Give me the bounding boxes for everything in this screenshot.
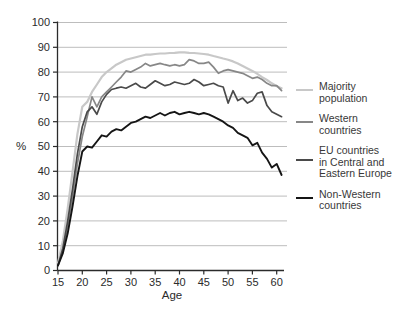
y-tick-label-50: 50 bbox=[38, 140, 50, 152]
legend-label-non-western: Non-Western countries bbox=[319, 189, 381, 212]
y-tick-label-20: 20 bbox=[38, 215, 50, 227]
legend-line-swatch-eu bbox=[296, 159, 313, 161]
legend-item-majority-population: Majority population bbox=[296, 81, 402, 104]
x-tick-label-35: 35 bbox=[149, 276, 161, 288]
y-tick-label-40: 40 bbox=[38, 165, 50, 177]
legend-text-line: population bbox=[319, 93, 367, 105]
legend-line-swatch-non-western bbox=[296, 197, 313, 199]
legend-label-western: Western countries bbox=[319, 113, 362, 136]
series-line-western-countries bbox=[58, 60, 282, 266]
y-tick-label-0: 0 bbox=[44, 264, 50, 276]
legend-text-line: Eastern Europe bbox=[319, 168, 392, 180]
legend-item-eu-countries: EU countries in Central and Eastern Euro… bbox=[296, 145, 402, 180]
figure: 0102030405060708090100152025303540455055… bbox=[0, 0, 406, 321]
x-tick-label-55: 55 bbox=[246, 276, 258, 288]
legend-text-line: EU countries bbox=[319, 145, 392, 157]
x-tick-label-30: 30 bbox=[125, 276, 137, 288]
y-tick-label-60: 60 bbox=[38, 116, 50, 128]
y-tick-label-10: 10 bbox=[38, 240, 50, 252]
x-tick-label-45: 45 bbox=[198, 276, 210, 288]
y-axis-title: % bbox=[16, 140, 26, 152]
y-tick-label-70: 70 bbox=[38, 91, 50, 103]
legend-label-eu: EU countries in Central and Eastern Euro… bbox=[319, 145, 392, 180]
legend-line-swatch-western bbox=[296, 121, 313, 123]
x-tick-label-60: 60 bbox=[271, 276, 283, 288]
x-tick-label-15: 15 bbox=[52, 276, 64, 288]
x-axis-title: Age bbox=[162, 289, 182, 301]
series-line-non-western-countries bbox=[58, 112, 282, 266]
y-tick-label-80: 80 bbox=[38, 66, 50, 78]
legend-item-non-western-countries: Non-Western countries bbox=[296, 189, 402, 212]
legend: Majority population Western countries EU… bbox=[296, 81, 402, 221]
legend-label-majority: Majority population bbox=[319, 81, 367, 104]
legend-item-western-countries: Western countries bbox=[296, 113, 402, 136]
series-line-eu-countries-in-central-and-eastern-europe bbox=[58, 80, 282, 266]
legend-text-line: countries bbox=[319, 200, 381, 212]
legend-line-swatch-majority bbox=[296, 89, 313, 91]
x-tick-label-25: 25 bbox=[100, 276, 112, 288]
legend-text-line: Western bbox=[319, 113, 362, 125]
legend-text-line: Majority bbox=[319, 81, 367, 93]
y-tick-label-30: 30 bbox=[38, 190, 50, 202]
y-tick-label-90: 90 bbox=[38, 41, 50, 53]
x-tick-label-20: 20 bbox=[76, 276, 88, 288]
legend-text-line: countries bbox=[319, 125, 362, 137]
x-tick-label-50: 50 bbox=[222, 276, 234, 288]
y-tick-label-100: 100 bbox=[32, 16, 50, 28]
x-tick-label-40: 40 bbox=[173, 276, 185, 288]
